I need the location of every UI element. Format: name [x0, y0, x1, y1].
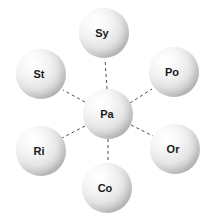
node-label-ri: Ri [34, 146, 45, 157]
node-label-pa: Pa [100, 109, 113, 120]
diagram-canvas: SyPoOrCoRiStPa [0, 0, 216, 222]
node-co[interactable]: Co [82, 163, 132, 213]
node-st[interactable]: St [16, 49, 66, 99]
node-ri[interactable]: Ri [16, 126, 66, 176]
node-label-co: Co [98, 183, 113, 194]
node-label-st: St [34, 69, 45, 80]
node-label-po: Po [165, 67, 179, 78]
node-or[interactable]: Or [150, 124, 200, 174]
node-label-or: Or [167, 144, 180, 155]
node-label-sy: Sy [95, 28, 108, 39]
node-pa[interactable]: Pa [83, 89, 133, 139]
node-sy[interactable]: Sy [79, 8, 129, 58]
node-layer: SyPoOrCoRiStPa [0, 0, 216, 222]
node-po[interactable]: Po [149, 47, 199, 97]
